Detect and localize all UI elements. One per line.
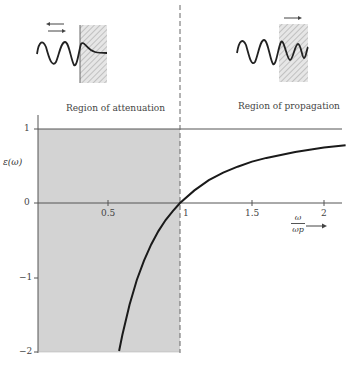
attenuation-shade [38, 129, 180, 352]
x-tick-label: 1.5 [245, 208, 259, 218]
x-axis-label: ω ωp [291, 213, 305, 234]
x-tick-label: 0.5 [101, 208, 115, 218]
propagation-inset [237, 16, 308, 82]
y-tick-label: 1 [24, 123, 30, 133]
x-tick-label: 1 [183, 208, 189, 218]
y-tick-label: −1 [19, 272, 32, 282]
attenuation-inset [37, 22, 107, 83]
figure-canvas [0, 0, 355, 367]
y-tick-label: 0 [24, 197, 30, 207]
medium-hatch-left [80, 25, 107, 83]
x-axis-arrow [306, 224, 327, 229]
x-label-numerator: ω [295, 213, 302, 222]
region-propagation-label: Region of propagation [238, 101, 340, 111]
y-axis-label: ε(ω) [3, 157, 22, 167]
reflection-arrows-icon [46, 22, 66, 33]
y-ticks [34, 129, 38, 352]
region-attenuation-label: Region of attenuation [66, 103, 165, 113]
transmission-arrow-icon [284, 16, 302, 20]
y-tick-label: −2 [19, 346, 32, 356]
x-label-denominator: ωp [292, 225, 304, 234]
x-tick-label: 2 [321, 208, 327, 218]
